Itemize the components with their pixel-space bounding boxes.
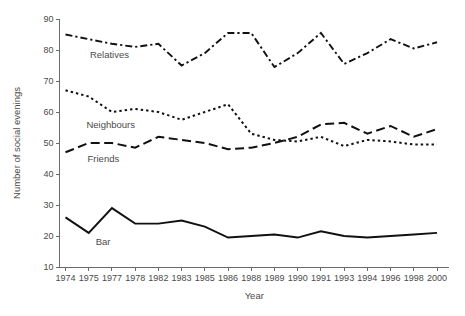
x-tick-label: 1994 bbox=[357, 273, 377, 283]
y-tick-label: 80 bbox=[43, 45, 53, 55]
x-axis-title: Year bbox=[245, 290, 264, 301]
chart-figure: 102030405060708090 197419751977197819821… bbox=[0, 0, 465, 316]
y-axis: 102030405060708090 bbox=[43, 14, 59, 272]
y-tick-label: 10 bbox=[43, 262, 53, 272]
y-tick-label: 20 bbox=[43, 231, 53, 241]
x-tick-label: 1983 bbox=[172, 273, 192, 283]
x-tick-label: 1996 bbox=[381, 273, 401, 283]
x-tick-label: 1988 bbox=[241, 273, 261, 283]
y-tick-label: 70 bbox=[43, 76, 53, 86]
x-tick-label: 1975 bbox=[79, 273, 99, 283]
y-tick-label: 90 bbox=[43, 14, 53, 24]
x-tick-label: 1978 bbox=[125, 273, 145, 283]
y-tick-label: 50 bbox=[43, 138, 53, 148]
x-tick-label: 1986 bbox=[218, 273, 238, 283]
series-line-bar bbox=[66, 208, 438, 237]
x-tick-label: 1982 bbox=[148, 273, 168, 283]
series-label-neighbours: Neighbours bbox=[86, 119, 135, 130]
x-tick-label: 1989 bbox=[264, 273, 284, 283]
series-label-friends: Friends bbox=[88, 153, 120, 164]
series-label-bar: Bar bbox=[96, 236, 111, 247]
x-tick-label: 1998 bbox=[404, 273, 424, 283]
series-lines bbox=[66, 33, 438, 238]
series-inline-labels: RelativesNeighboursFriendsBar bbox=[86, 49, 135, 248]
x-tick-label: 1974 bbox=[55, 273, 75, 283]
x-tick-label: 1990 bbox=[288, 273, 308, 283]
y-tick-label: 60 bbox=[43, 107, 53, 117]
x-tick-label: 1977 bbox=[102, 273, 122, 283]
x-tick-label: 1991 bbox=[311, 273, 331, 283]
x-tick-label: 2000 bbox=[427, 273, 447, 283]
line-chart: 102030405060708090 197419751977197819821… bbox=[0, 0, 465, 316]
x-tick-label: 1993 bbox=[334, 273, 354, 283]
series-label-relatives: Relatives bbox=[90, 49, 129, 60]
x-tick-label: 1985 bbox=[195, 273, 215, 283]
y-axis-title: Number of social evenings bbox=[11, 87, 22, 199]
y-tick-label: 40 bbox=[43, 169, 53, 179]
x-axis: 1974197519771978198219831985198619881989… bbox=[55, 267, 449, 283]
y-tick-label: 30 bbox=[43, 200, 53, 210]
